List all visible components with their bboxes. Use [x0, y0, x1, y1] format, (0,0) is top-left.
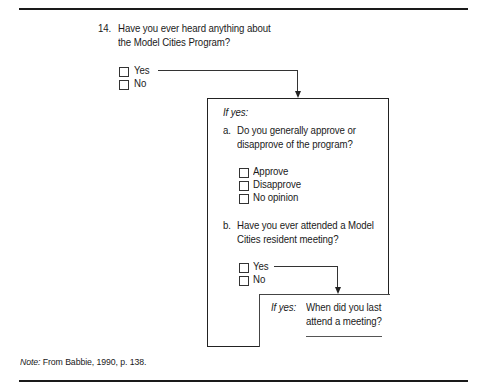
option-meeting-no: No — [253, 273, 265, 286]
checkbox-approve[interactable] — [239, 168, 249, 178]
note-label: Note: — [20, 356, 40, 367]
note-text: From Babbie, 1990, p. 138. — [40, 356, 146, 367]
option-q14-yes: Yes — [134, 64, 149, 77]
checkbox-meeting-yes[interactable] — [239, 263, 249, 273]
part-b-letter: b. — [223, 219, 231, 232]
checkbox-no-opinion[interactable] — [239, 194, 249, 204]
option-disapprove: Disapprove — [253, 178, 301, 191]
connector-line-vertical-b — [337, 266, 338, 288]
arrow-down-icon — [295, 91, 301, 98]
connector-line-horizontal-b — [274, 266, 338, 267]
checkbox-q14-no[interactable] — [119, 80, 129, 90]
question-text-line2: the Model Cities Program? — [118, 36, 230, 49]
option-meeting-yes: Yes — [253, 260, 268, 273]
question-number: 14. — [98, 22, 111, 35]
checkbox-meeting-no[interactable] — [239, 276, 249, 286]
part-a-text-line1: Do you generally approve or — [237, 124, 356, 137]
answer-blank-line[interactable] — [306, 336, 382, 337]
part-a-text-line2: disapprove of the program? — [237, 138, 353, 151]
source-note: Note: From Babbie, 1990, p. 138. — [20, 355, 146, 368]
sub-box-condition: If yes: — [271, 301, 296, 314]
part-b-text-line1: Have you ever attended a Model — [237, 219, 374, 232]
arrow-down-icon — [335, 287, 341, 294]
option-approve: Approve — [253, 165, 288, 178]
checkbox-q14-yes[interactable] — [119, 67, 129, 77]
option-no-opinion: No opinion — [253, 191, 298, 204]
connector-line-horizontal — [158, 70, 298, 71]
checkbox-disapprove[interactable] — [239, 181, 249, 191]
option-q14-no: No — [134, 77, 146, 90]
sub-box-text-line2: attend a meeting? — [306, 315, 382, 328]
followup-condition: If yes: — [223, 106, 248, 119]
sub-box-text-line1: When did you last — [306, 301, 381, 314]
bottom-rule — [19, 380, 468, 382]
question-text-line1: Have you ever heard anything about — [118, 22, 271, 35]
part-a-letter: a. — [223, 124, 231, 137]
part-b-text-line2: Cities resident meeting? — [237, 233, 338, 246]
connector-line-vertical — [297, 70, 298, 92]
top-rule — [19, 8, 468, 10]
